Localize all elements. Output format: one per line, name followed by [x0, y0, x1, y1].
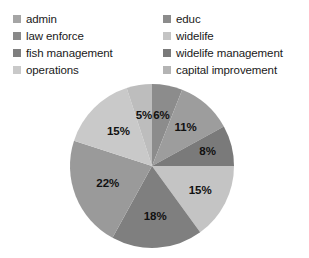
legend-column-left: admin law enforce fish management operat…: [13, 11, 113, 79]
legend-item-educ[interactable]: educ: [163, 11, 283, 27]
legend-item-widelife-management[interactable]: widelife management: [163, 45, 283, 61]
legend-column-right: educ widelife widelife management capita…: [163, 11, 283, 79]
legend-item-widelife[interactable]: widelife: [163, 28, 283, 44]
legend-swatch-icon: [163, 66, 171, 74]
pie-slice[interactable]: [152, 166, 234, 232]
legend-item-fish-management[interactable]: fish management: [13, 45, 113, 61]
legend-item-admin[interactable]: admin: [13, 11, 113, 27]
legend-item-label: fish management: [26, 47, 113, 60]
legend-item-label: widelife: [176, 30, 214, 43]
chart-legend: admin law enforce fish management operat…: [0, 0, 309, 82]
pie-slice-label: 11%: [174, 121, 196, 133]
pie-slice[interactable]: [152, 127, 234, 167]
pie-slice[interactable]: [70, 141, 152, 238]
legend-item-label: educ: [176, 13, 201, 26]
legend-swatch-icon: [13, 15, 21, 23]
legend-swatch-icon: [13, 49, 21, 57]
pie-slice-label: 8%: [199, 145, 216, 157]
legend-item-label: admin: [26, 13, 57, 26]
pie-slice[interactable]: [152, 90, 224, 166]
legend-item-law-enforce[interactable]: law enforce: [13, 28, 113, 44]
legend-item-capital-improvement[interactable]: capital improvement: [163, 62, 283, 78]
legend-swatch-icon: [163, 49, 171, 57]
pie-chart-figure: admin law enforce fish management operat…: [0, 0, 309, 258]
legend-swatch-icon: [13, 32, 21, 40]
legend-swatch-icon: [13, 66, 21, 74]
legend-item-label: capital improvement: [176, 64, 277, 77]
pie-slice-label: 22%: [96, 177, 119, 189]
pie-slices-group: [70, 84, 234, 248]
pie-slice[interactable]: [74, 88, 152, 166]
pie-slice-label: 5%: [136, 109, 153, 121]
legend-item-operations[interactable]: operations: [13, 62, 113, 78]
pie-slice[interactable]: [113, 166, 201, 248]
legend-item-label: widelife management: [176, 47, 283, 60]
pie-slice-label: 6%: [153, 109, 170, 121]
legend-swatch-icon: [163, 15, 171, 23]
legend-item-label: law enforce: [26, 30, 84, 43]
pie-data-labels-group: 6% 11% 8% 15% 18% 22% 15% 5%: [96, 109, 216, 222]
legend-item-label: operations: [26, 64, 79, 77]
pie-slice[interactable]: [152, 84, 182, 166]
pie-slice-label: 18%: [144, 210, 167, 222]
pie-slice-label: 15%: [107, 125, 130, 137]
pie-slice-label: 15%: [189, 184, 212, 196]
legend-swatch-icon: [163, 32, 171, 40]
pie-slice[interactable]: [127, 84, 152, 166]
